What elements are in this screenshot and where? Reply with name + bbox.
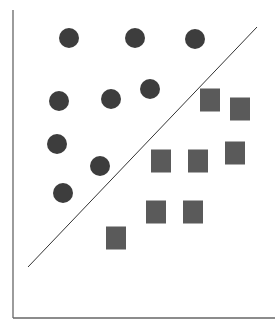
square-marker: [230, 98, 250, 121]
square-marker: [200, 89, 220, 112]
circle-marker: [53, 183, 73, 203]
scatter-chart: [0, 0, 275, 332]
circle-marker: [90, 156, 110, 176]
circle-marker: [140, 79, 160, 99]
plot-area: [0, 0, 275, 332]
square-marker: [106, 227, 126, 250]
circle-marker: [125, 28, 145, 48]
circle-marker: [101, 89, 121, 109]
circle-marker: [59, 28, 79, 48]
square-marker: [188, 150, 208, 173]
square-marker: [225, 142, 245, 165]
square-marker: [183, 201, 203, 224]
circle-marker: [185, 29, 205, 49]
circle-marker: [49, 91, 69, 111]
square-marker: [151, 150, 171, 173]
square-marker: [146, 201, 166, 224]
circle-marker: [47, 134, 67, 154]
